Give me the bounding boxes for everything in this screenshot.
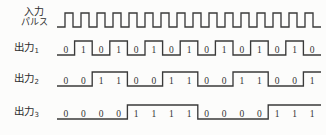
bit-value: 0: [304, 45, 320, 55]
bit-value: 0: [199, 76, 215, 86]
bit-value: 0: [251, 109, 267, 119]
bit-value: 1: [181, 109, 197, 119]
label-input-pulse-line1: 入力: [12, 6, 56, 17]
label-output-2-text: 出力: [14, 72, 34, 84]
bit-value: 1: [75, 45, 91, 55]
bit-value: 1: [181, 45, 197, 55]
bit-value: 0: [199, 45, 215, 55]
bit-value: 0: [75, 109, 91, 119]
bit-value: 1: [181, 76, 197, 86]
label-output-3: 出力3: [14, 105, 39, 121]
bit-value: 0: [199, 109, 215, 119]
bit-value: 0: [128, 76, 144, 86]
bit-value: 0: [216, 109, 232, 119]
bit-value: 1: [216, 45, 232, 55]
bit-value: 1: [234, 76, 250, 86]
label-output-2: 出力2: [14, 72, 39, 88]
bit-value: 1: [93, 76, 109, 86]
label-output-1: 出力1: [14, 41, 39, 57]
bit-value: 0: [111, 109, 127, 119]
bit-value: 1: [146, 109, 162, 119]
bit-value: 0: [234, 45, 250, 55]
waveform-input-pulse: [57, 13, 321, 27]
label-output-1-text: 出力: [14, 41, 34, 53]
bit-value: 1: [163, 76, 179, 86]
label-output-3-subscript: 3: [34, 111, 39, 119]
bit-value: 0: [287, 76, 303, 86]
bit-value: 1: [287, 45, 303, 55]
bit-value: 1: [287, 109, 303, 119]
bit-value: 0: [269, 76, 285, 86]
bit-value: 0: [93, 109, 109, 119]
bit-value: 1: [304, 109, 320, 119]
label-input-pulse: 入力 パルス: [12, 6, 56, 28]
bit-value: 1: [111, 76, 127, 86]
bit-value: 0: [58, 109, 74, 119]
bit-value: 0: [163, 45, 179, 55]
label-input-pulse-line2: パルス: [12, 17, 56, 28]
bit-value: 0: [269, 45, 285, 55]
bit-value: 0: [58, 45, 74, 55]
label-output-1-subscript: 1: [34, 47, 39, 55]
bit-value: 1: [304, 76, 320, 86]
bit-value: 0: [128, 45, 144, 55]
bit-value: 0: [93, 45, 109, 55]
bit-value: 1: [163, 109, 179, 119]
bit-value: 0: [216, 76, 232, 86]
timing-diagram-figure: 入力 パルス 出力1 出力2 出力3 010101010101010001100…: [0, 0, 326, 135]
bit-value: 1: [251, 76, 267, 86]
bit-value: 1: [111, 45, 127, 55]
bit-value: 0: [234, 109, 250, 119]
bit-value: 1: [128, 109, 144, 119]
bit-value: 1: [251, 45, 267, 55]
bit-value: 1: [146, 45, 162, 55]
bit-value: 0: [58, 76, 74, 86]
bit-value: 0: [146, 76, 162, 86]
label-output-3-text: 出力: [14, 105, 34, 117]
bit-value: 1: [269, 109, 285, 119]
bit-value: 0: [75, 76, 91, 86]
label-output-2-subscript: 2: [34, 78, 39, 86]
